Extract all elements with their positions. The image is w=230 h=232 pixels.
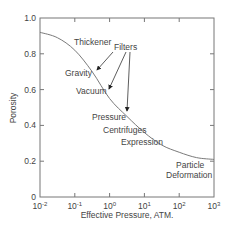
y-axis-title: Porosity [8,92,18,123]
x-tick-label: 102 [173,201,186,211]
arrow-filters-to-vacuum [109,52,126,89]
x-tick-label: 10-2 [33,201,48,211]
porosity-chart: 10-210-110010110210300.20.40.60.81.0 Thi… [0,0,230,232]
arrow-filters-to-pressure [127,52,130,111]
annotation-pressure: Pressure [92,112,126,122]
y-tick-label: 0.6 [24,85,36,95]
y-tick-label: 0.8 [24,49,36,59]
annotation-thickener: Thickener [74,37,111,47]
annotation-particle: Particle [176,160,205,170]
x-tick-label: 103 [208,201,221,211]
x-axis-title: Effective Pressure, ATM. [81,210,174,220]
y-tick-label: 1.0 [24,13,36,23]
annotation-filters: Filters [114,42,137,52]
y-tick-label: 0.4 [24,120,36,130]
annotation-deformation: Deformation [166,170,213,180]
annotation-centrifuges: Centrifuges [103,125,146,135]
annotation-expression: Expression [121,137,163,147]
annotations: ThickenerFiltersGravityVacuumPressureCen… [65,37,213,180]
annotation-gravity: Gravity [65,68,93,78]
y-tick-label: 0 [31,192,36,202]
arrow-filters-to-gravity [97,52,113,70]
annotation-vacuum: Vacuum [76,86,107,96]
annotation-arrows [97,52,130,111]
y-tick-label: 0.2 [24,156,36,166]
